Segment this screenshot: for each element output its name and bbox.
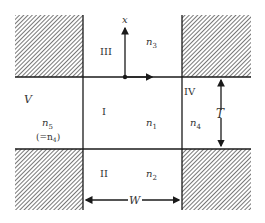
hatched-region-top-left (15, 15, 83, 77)
index-n1: n1 (146, 117, 157, 131)
index-n3: n3 (146, 36, 157, 50)
width-label: W (129, 194, 142, 207)
index-n5: n5 (42, 117, 53, 131)
origin-dot (123, 75, 127, 79)
index-n4: n4 (190, 117, 201, 131)
hatched-region-bottom-left (15, 149, 83, 210)
region-label-I: I (102, 106, 106, 117)
index-n2: n2 (146, 168, 157, 182)
waveguide-diagram: x T W III I II IV V n3 n1 n2 n4 n5 (=n4) (0, 0, 265, 223)
thickness-label: T (216, 107, 225, 121)
region-label-IV: IV (184, 86, 196, 97)
region-label-II: II (100, 168, 108, 179)
axis-label-x: x (122, 14, 128, 25)
hatched-region-bottom-right (182, 149, 251, 210)
index-n5-note: (=n4) (36, 132, 60, 143)
region-label-III: III (100, 46, 112, 57)
hatched-region-top-right (182, 15, 251, 77)
region-label-V: V (24, 93, 33, 106)
